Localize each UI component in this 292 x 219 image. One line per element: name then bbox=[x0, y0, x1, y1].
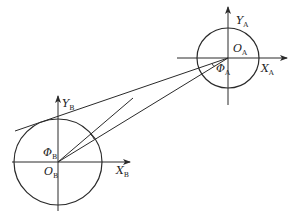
y-label-a: YA bbox=[236, 14, 249, 29]
x-label-b: XB bbox=[115, 164, 129, 179]
angle-label-b: ΦB bbox=[43, 146, 57, 161]
angle-arc-a bbox=[212, 64, 215, 67]
two-frame-circle-diagram: YA OA XA ΦA YB ΦB OB XB bbox=[0, 0, 292, 219]
origin-label-a: OA bbox=[233, 42, 248, 57]
frame-a: YA OA XA ΦA bbox=[177, 7, 287, 105]
x-label-a: XA bbox=[260, 62, 275, 77]
center-line-ob-oa bbox=[58, 58, 228, 162]
y-label-b: YB bbox=[62, 97, 74, 112]
origin-label-b: OB bbox=[44, 165, 58, 180]
